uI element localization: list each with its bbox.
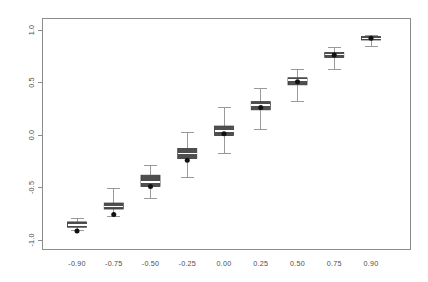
mean-marker <box>222 131 227 136</box>
x-axis: -0.90-0.75-0.50-0.250.000.250.500.750.90 <box>68 259 378 268</box>
y-tick-label: 0.5 <box>27 77 36 88</box>
y-tick-label: 0.0 <box>27 130 36 141</box>
mean-marker <box>75 229 80 234</box>
x-tick-label: -0.25 <box>179 259 196 268</box>
x-tick-label: 0.75 <box>327 259 342 268</box>
mean-marker <box>111 212 116 217</box>
x-tick-label: -0.75 <box>105 259 122 268</box>
mean-marker <box>295 79 300 84</box>
box-group <box>362 35 381 46</box>
y-axis: 1.00.50.0-0.5-1.0 <box>27 25 43 247</box>
x-tick-label: 0.90 <box>364 259 379 268</box>
mean-marker <box>185 158 190 163</box>
mean-marker <box>148 184 153 189</box>
mean-marker <box>258 105 263 110</box>
box-group <box>178 132 197 177</box>
plot-canvas: 1.00.50.0-0.5-1.0 -0.90-0.75-0.50-0.250.… <box>0 0 428 282</box>
box-group <box>325 47 344 69</box>
y-tick-label: -1.0 <box>27 233 36 246</box>
box-group <box>104 188 123 217</box>
x-tick-label: 0.00 <box>217 259 232 268</box>
x-tick-label: -0.90 <box>68 259 85 268</box>
mean-marker <box>369 36 374 41</box>
y-tick-label: -0.5 <box>27 181 36 194</box>
y-tick-label: 1.0 <box>27 25 36 36</box>
mean-marker <box>332 52 337 57</box>
x-tick-label: -0.50 <box>142 259 159 268</box>
x-tick-label: 0.25 <box>253 259 268 268</box>
box-group <box>141 165 160 198</box>
box-group <box>251 89 270 129</box>
box-group <box>215 108 234 154</box>
box-series <box>68 35 381 234</box>
box-group <box>288 69 307 101</box>
boxplot-figure: 1.00.50.0-0.5-1.0 -0.90-0.75-0.50-0.250.… <box>0 0 428 282</box>
box-group <box>68 218 87 233</box>
x-tick-label: 0.50 <box>290 259 305 268</box>
